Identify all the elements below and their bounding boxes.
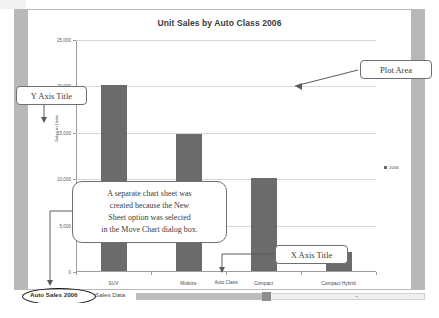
y-axis-tick-mark [73, 40, 76, 41]
x-axis-tick-mark [151, 272, 152, 275]
chart-title[interactable]: Unit Sales by Auto Class 2006 [28, 18, 411, 28]
x-axis-tick-mark [226, 272, 227, 275]
y-axis-tick-mark [73, 179, 76, 180]
y-axis-tick-label: 25,000 [25, 38, 71, 43]
callout-note-line: in the Move Chart dialog box. [101, 224, 197, 236]
x-axis-category-label: SUV [77, 281, 151, 286]
left-gutter [15, 10, 28, 289]
y-axis-title-arrowhead-icon [41, 117, 47, 123]
sheet-tab-sales-data[interactable]: Sales Data [95, 291, 125, 298]
y-axis-title[interactable]: Sales in Units [54, 115, 59, 142]
legend-label: 2006 [389, 165, 399, 170]
chart-area[interactable]: Unit Sales by Auto Class 2006 05,00010,0… [28, 10, 411, 289]
callout-plot-area: Plot Area [360, 60, 432, 79]
y-axis-tick-label: 5,000 [25, 223, 71, 228]
callout-note-line: created because the New [110, 200, 189, 212]
bar-compact[interactable] [251, 178, 277, 271]
x-axis-tick-mark [301, 272, 302, 275]
x-axis-title-arrowhead-icon [219, 267, 225, 273]
horizontal-scrollbar-thumb[interactable] [262, 292, 271, 301]
window-top-strip [0, 0, 439, 9]
x-axis-title[interactable]: Auto Class [176, 280, 276, 285]
gridline [76, 40, 376, 41]
chart-legend[interactable]: 2006 [384, 165, 399, 170]
workbook-window: Unit Sales by Auto Class 2006 05,00010,0… [0, 0, 439, 318]
right-gutter [411, 10, 424, 289]
x-axis-tick-mark [376, 272, 377, 275]
horizontal-scrollbar-fill[interactable] [136, 293, 262, 300]
callout-y-axis-title: Y Axis Title [16, 86, 87, 105]
y-axis-tick-mark [73, 133, 76, 134]
callout-note: A separate chart sheet was created becau… [72, 181, 227, 243]
callout-note-line: A separate chart sheet was [107, 188, 191, 200]
sheet-tab-arrowhead-icon [47, 280, 53, 286]
top-strip-shade [0, 0, 26, 9]
callout-x-axis-title: X Axis Title [275, 245, 348, 264]
y-axis-tick-label: 10,000 [25, 177, 71, 182]
bar-suv[interactable] [101, 85, 127, 271]
bottom-margin [0, 303, 439, 318]
scrollbar-marker-icon [355, 296, 358, 297]
y-axis-tick-label: 15,000 [25, 130, 71, 135]
x-axis-tick-mark [76, 272, 77, 275]
y-axis-tick-label: 0 [25, 270, 71, 275]
callout-note-line: Sheet option was selected [108, 212, 190, 224]
legend-swatch-icon [384, 166, 387, 169]
x-axis-category-label: Compact Hybrid [302, 281, 376, 286]
